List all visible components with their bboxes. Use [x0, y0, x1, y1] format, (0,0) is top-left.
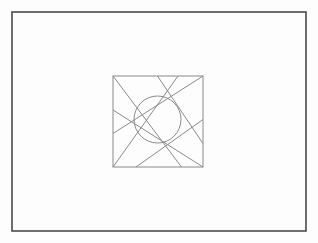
- line-drawing-svg: [0, 0, 318, 243]
- figure-canvas-root: [0, 0, 318, 243]
- canvas-background: [0, 0, 318, 243]
